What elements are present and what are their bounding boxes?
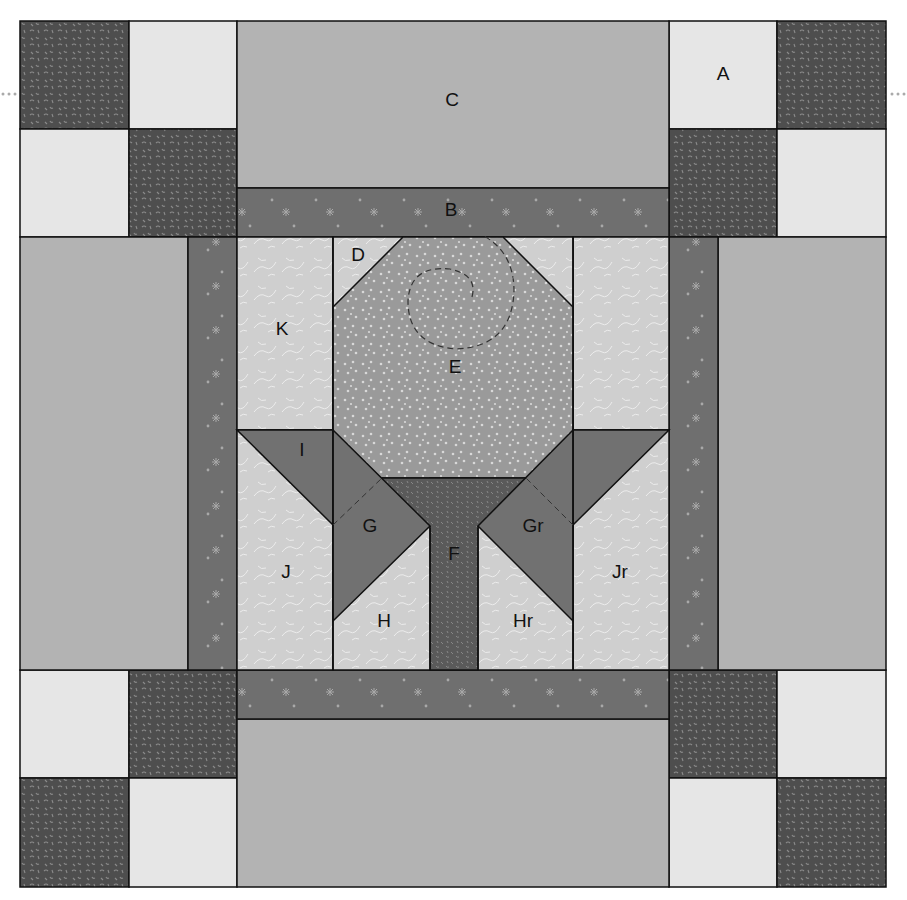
strip-b-right <box>669 237 718 670</box>
panel-side-left <box>20 237 188 670</box>
corner-patch-bottom-right <box>669 670 886 887</box>
corner-patch-top-right <box>669 21 886 237</box>
label-k: K <box>276 318 289 339</box>
label-gr: Gr <box>522 515 544 536</box>
strip-b-bottom <box>237 670 669 719</box>
label-a: A <box>717 63 730 84</box>
background-k-right <box>573 237 669 430</box>
label-d: D <box>351 244 365 265</box>
registration-dots-left <box>2 93 17 96</box>
corner-patch-bottom-left <box>20 670 237 887</box>
quilt-block-diagram: A C B D K E I G Gr F J Jr H Hr <box>0 0 907 900</box>
label-h: H <box>377 610 391 631</box>
corner-patch-top-left <box>20 21 237 237</box>
strip-b-left <box>188 237 237 670</box>
label-e: E <box>449 356 462 377</box>
label-b: B <box>445 199 458 220</box>
registration-dots-right <box>891 93 906 96</box>
label-c: C <box>445 89 459 110</box>
label-f: F <box>448 543 460 564</box>
panel-side-right <box>718 237 886 670</box>
label-i: I <box>299 439 304 460</box>
label-jr: Jr <box>612 561 629 582</box>
label-hr: Hr <box>513 610 534 631</box>
label-g: G <box>363 515 378 536</box>
panel-c-bottom <box>237 719 669 887</box>
label-j: J <box>281 561 291 582</box>
